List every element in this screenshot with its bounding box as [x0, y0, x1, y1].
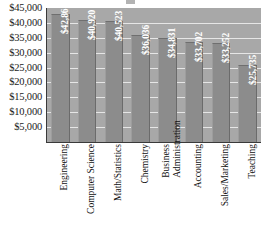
x-axis-tick-label: Sales/Marketing: [220, 144, 231, 206]
plot-area: $42,862$40,920$40,523$36,036$34,831$33,7…: [46, 8, 261, 143]
x-axis-tick-label-line: Chemistry: [140, 144, 150, 184]
x-axis-tick-label-line: Administration: [172, 120, 183, 178]
bar: $33,702: [185, 42, 204, 142]
bar-value-label: $40,920: [87, 10, 97, 40]
x-axis-tick-label: Computer Science: [86, 144, 97, 214]
bars-group: $42,862$40,920$40,523$36,036$34,831$33,7…: [47, 8, 261, 142]
x-axis-tick: Teaching: [237, 144, 256, 226]
x-axis-tick-label: Accounting: [193, 144, 204, 188]
bar-chart-figure: $45,000$40,000$35,000$30,000$25,000$20,0…: [0, 0, 263, 226]
x-axis-tick-label-line: Teaching: [247, 144, 257, 179]
bar: $40,523: [105, 21, 124, 142]
bar-value-label: $36,036: [141, 25, 151, 55]
y-axis-tick-label: $30,000: [9, 48, 42, 59]
bar-value-label: $34,831: [167, 28, 177, 58]
bar-value-label: $40,523: [114, 11, 124, 41]
bar-value-label: $42,862: [60, 8, 70, 34]
y-axis-tick-label: $45,000: [9, 3, 42, 14]
bar: $42,862: [51, 14, 70, 142]
x-axis-tick-label-line: Math/Statistics: [113, 144, 123, 201]
bar-value-label: $33,252: [221, 33, 231, 63]
bar-value-label: $33,702: [194, 32, 204, 62]
y-axis-tick-label: $25,000: [9, 63, 42, 74]
y-axis-tick-label: $10,000: [9, 107, 42, 118]
title-remnant: [126, 0, 135, 4]
x-axis-tick: Computer Science: [77, 144, 96, 226]
x-axis-tick: Chemistry: [130, 144, 149, 226]
x-axis-tick: Engineering: [50, 144, 69, 226]
x-axis-tick-label-line: Accounting: [193, 144, 203, 188]
bar: $33,252: [212, 43, 231, 142]
bar-value-label: $25,735: [248, 55, 258, 85]
x-axis-tick-label-line: Computer Science: [86, 144, 96, 214]
x-axis-tick-label: Engineering: [59, 144, 70, 190]
x-axis-tick-label: Math/Statistics: [113, 144, 124, 201]
x-axis-tick-label-line: Sales/Marketing: [220, 144, 230, 206]
x-axis-tick-label: BusinessAdministration: [161, 144, 172, 178]
x-axis-tick-label: Chemistry: [140, 144, 151, 184]
y-axis-tick-label: $20,000: [9, 77, 42, 88]
bar: $25,735: [238, 65, 257, 142]
bar: $36,036: [131, 35, 150, 142]
y-axis: $45,000$40,000$35,000$30,000$25,000$20,0…: [0, 8, 44, 142]
y-axis-tick-label: $5,000: [14, 122, 42, 133]
y-axis-tick-label: $35,000: [9, 33, 42, 44]
y-axis-tick-label: $40,000: [9, 18, 42, 29]
x-axis: EngineeringComputer ScienceMath/Statisti…: [46, 144, 260, 226]
x-axis-tick: Sales/Marketing: [211, 144, 230, 226]
x-axis-tick-label-line: Business: [161, 144, 171, 178]
x-axis-tick: BusinessAdministration: [157, 144, 176, 226]
bar: $40,920: [78, 20, 97, 142]
x-axis-tick-label: Teaching: [247, 144, 258, 179]
x-axis-tick: Math/Statistics: [104, 144, 123, 226]
x-axis-tick-label-line: Engineering: [59, 144, 69, 190]
y-axis-tick-label: $15,000: [9, 92, 42, 103]
x-axis-tick: Accounting: [184, 144, 203, 226]
